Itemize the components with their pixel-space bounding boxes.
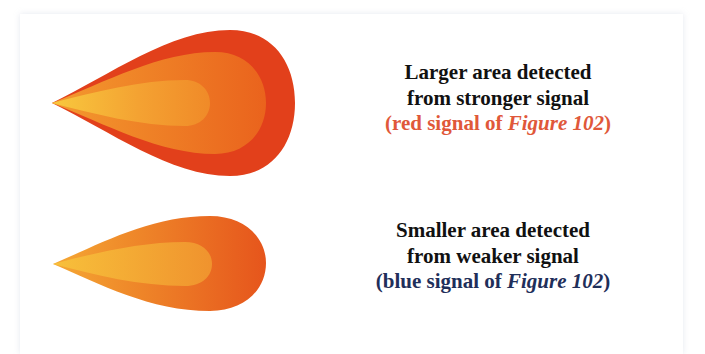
- figure-reference: Figure 102: [507, 269, 603, 293]
- small-inner-core: [53, 242, 212, 286]
- inner-core: [52, 80, 210, 126]
- large-area-caption: Larger area detected from stronger signa…: [348, 60, 648, 137]
- red-signal-reference: (red signal of Figure 102): [348, 111, 648, 137]
- caption-line-1: Larger area detected: [348, 60, 648, 86]
- caption-line-2: from weaker signal: [343, 244, 643, 270]
- reference-prefix: (blue signal of: [376, 269, 507, 293]
- reference-suffix: ): [604, 111, 611, 135]
- large-detection-area-shape: [0, 0, 705, 354]
- reference-suffix: ): [603, 269, 610, 293]
- caption-line-1: Smaller area detected: [343, 218, 643, 244]
- figure-reference: Figure 102: [508, 111, 604, 135]
- reference-prefix: (red signal of: [385, 111, 508, 135]
- caption-line-2: from stronger signal: [348, 86, 648, 112]
- small-area-caption: Smaller area detected from weaker signal…: [343, 218, 643, 295]
- blue-signal-reference: (blue signal of Figure 102): [343, 269, 643, 295]
